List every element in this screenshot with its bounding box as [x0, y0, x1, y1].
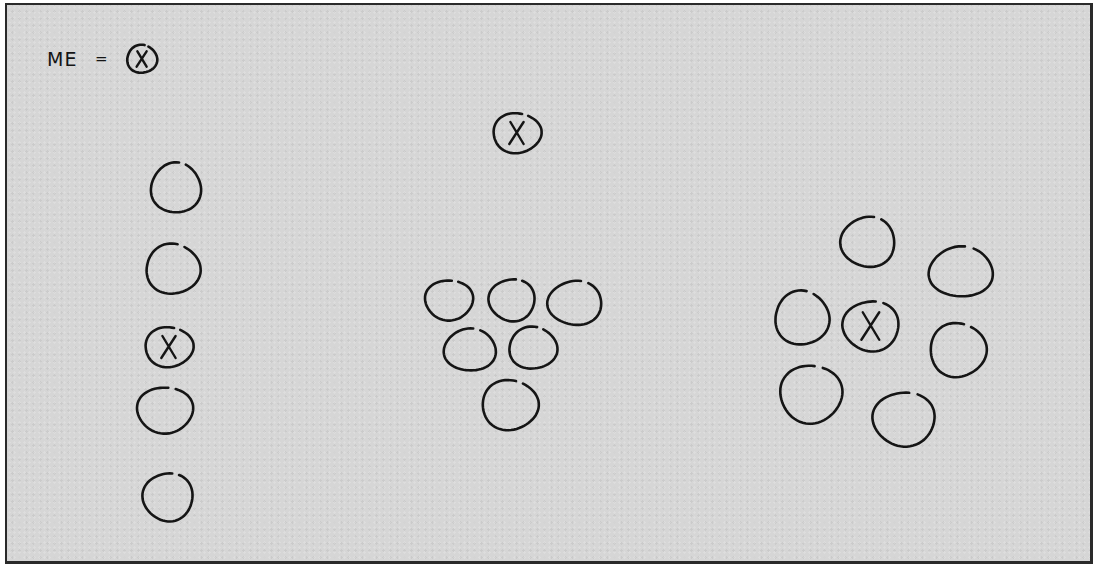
group-line-formation [137, 162, 201, 521]
person-circle-icon [488, 279, 534, 321]
x-mark-icon [509, 122, 523, 144]
legend-me-symbol-icon [127, 45, 157, 73]
person-circle-icon [509, 327, 557, 369]
person-circle-icon [151, 162, 201, 212]
person-circle-icon [780, 366, 842, 424]
group-apart-from-group [425, 113, 601, 430]
person-circle-icon [483, 380, 539, 430]
person-circle-icon [142, 473, 192, 521]
person-me-icon [842, 301, 898, 351]
person-circle-icon [137, 388, 193, 434]
x-mark-icon [137, 51, 147, 66]
person-circle-icon [931, 323, 987, 377]
person-circle-icon [929, 246, 993, 296]
person-circle-icon [147, 244, 201, 294]
person-circle-icon [840, 217, 894, 267]
person-circle-icon [776, 290, 830, 344]
person-circle-icon [547, 281, 601, 325]
person-me-icon [494, 113, 542, 153]
person-circle-icon [872, 393, 934, 447]
x-mark-icon [861, 312, 879, 340]
person-circle-icon [425, 281, 473, 321]
person-circle-icon [444, 328, 496, 370]
group-center-of-circle [776, 217, 993, 447]
diagram-drawing [0, 0, 1096, 577]
person-me-icon [146, 327, 194, 367]
me-symbol-icon [127, 45, 157, 73]
x-mark-icon [161, 336, 175, 358]
